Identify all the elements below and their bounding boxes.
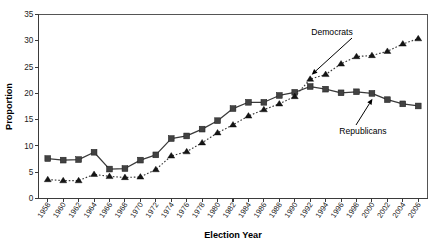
data-point [184, 133, 190, 139]
x-tick-label: 1998 [344, 201, 361, 220]
x-tick-label: 1996 [329, 201, 346, 220]
x-tick-label: 1978 [190, 201, 207, 220]
republicans-annotation-label: Republicans [339, 126, 386, 136]
x-tick-label: 1958 [36, 201, 53, 220]
data-point [60, 157, 66, 163]
x-tick-label: 1988 [267, 201, 284, 220]
democrats-leader [312, 38, 352, 75]
x-tick-label: 1966 [97, 201, 114, 220]
data-point [91, 171, 98, 177]
data-point [369, 90, 375, 96]
data-point [214, 129, 221, 135]
x-tick-label: 1992 [298, 201, 315, 220]
data-point [246, 99, 252, 105]
x-tick-label: 1994 [313, 201, 330, 220]
y-tick-label: 10 [24, 142, 34, 151]
data-point [199, 126, 205, 132]
data-point [183, 148, 190, 154]
y-tick-label: 20 [24, 89, 34, 98]
data-point [230, 122, 237, 128]
data-point [400, 101, 406, 107]
y-axis-title: Proportion [4, 83, 14, 130]
data-point [230, 106, 236, 112]
data-point [137, 157, 143, 163]
leader-line [356, 104, 369, 125]
data-point [415, 103, 421, 109]
x-axis-title: Election Year [204, 230, 262, 240]
data-point [60, 177, 67, 183]
x-tick-label: 1990 [282, 201, 299, 220]
data-point [44, 176, 51, 182]
line-chart: 05101520253035 1958196019621964196619681… [0, 0, 442, 249]
data-point [107, 166, 113, 172]
data-point [76, 157, 82, 163]
democrats-annotation-label: Democrats [311, 27, 353, 37]
data-point [354, 89, 360, 95]
x-tick-label: 2002 [375, 201, 392, 220]
x-tick-label: 1972 [144, 201, 161, 220]
data-point [168, 136, 174, 142]
x-tick-label: 1986 [252, 201, 269, 220]
data-point [307, 84, 313, 90]
leader-arrowhead [367, 99, 372, 105]
data-point [384, 97, 390, 103]
x-tick-label: 1964 [82, 201, 99, 220]
x-tick-label: 2000 [360, 201, 377, 220]
data-point [368, 52, 375, 58]
y-tick-label: 0 [29, 194, 34, 203]
y-axis-ticks: 05101520253035 [24, 10, 38, 203]
leader-line [316, 38, 352, 71]
data-point [91, 149, 97, 155]
data-point [152, 166, 159, 172]
data-point [261, 99, 267, 105]
data-point [75, 177, 82, 183]
x-tick-label: 1980 [205, 201, 222, 220]
x-tick-label: 1974 [159, 201, 176, 220]
data-point [153, 152, 159, 158]
data-point [322, 71, 329, 77]
series-layer [44, 35, 421, 182]
x-tick-label: 1960 [51, 201, 68, 220]
x-tick-label: 1968 [113, 201, 130, 220]
data-point [199, 139, 206, 145]
data-point [323, 86, 329, 92]
x-tick-label: 1982 [221, 201, 238, 220]
x-tick-label: 1976 [174, 201, 191, 220]
republicans-leader [356, 99, 372, 125]
data-point [215, 118, 221, 124]
x-axis-ticks: 1958196019621964196619681970197219741976… [36, 199, 423, 220]
y-tick-label: 15 [24, 115, 34, 124]
data-point [137, 174, 144, 180]
data-point [45, 156, 51, 162]
data-point [276, 101, 283, 107]
x-tick-label: 2006 [406, 201, 423, 220]
annotation-layer: DemocratsRepublicans [311, 27, 386, 136]
data-point [415, 35, 422, 41]
data-point [122, 166, 128, 172]
data-point [338, 90, 344, 96]
x-tick-label: 2004 [391, 201, 408, 220]
data-point [276, 93, 282, 99]
x-tick-label: 1984 [236, 201, 253, 220]
y-tick-label: 25 [24, 63, 34, 72]
chart-figure: 05101520253035 1958196019621964196619681… [0, 0, 442, 249]
x-tick-label: 1970 [128, 201, 145, 220]
y-tick-label: 30 [24, 36, 34, 45]
y-tick-label: 35 [24, 10, 34, 19]
y-tick-label: 5 [29, 168, 34, 177]
x-tick-label: 1962 [66, 201, 83, 220]
